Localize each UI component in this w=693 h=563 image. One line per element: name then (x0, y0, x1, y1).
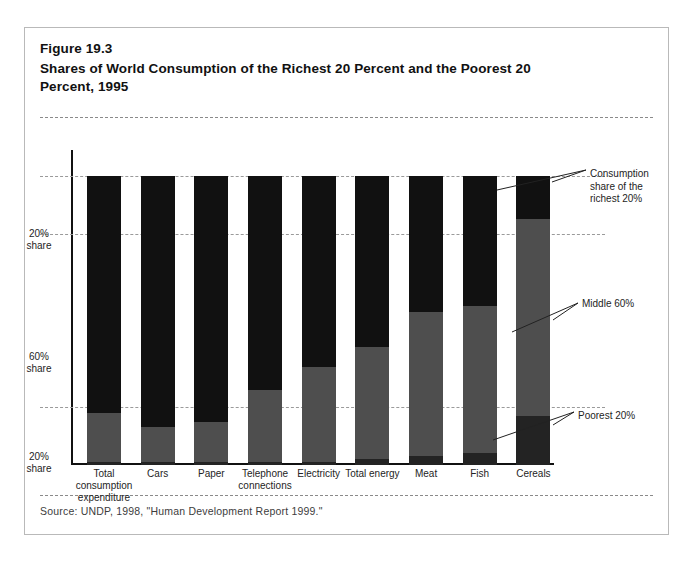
annotation-poorest: Poorest 20% (578, 410, 663, 423)
bar-8 (516, 176, 550, 465)
bar-segment-poorest (141, 462, 175, 465)
bars-area: 20%share60%share20%shareTotalconsumption… (73, 176, 554, 465)
bar-segment-poorest (248, 462, 282, 465)
bar-segment-richest (355, 176, 389, 347)
bar-segment-middle (409, 312, 443, 457)
x-label-line: connections (225, 480, 305, 492)
bar-segment-poorest (194, 462, 228, 465)
bar-segment-poorest (516, 416, 550, 465)
bar-segment-richest (516, 176, 550, 219)
bar-segment-poorest (302, 462, 336, 465)
annotation-middle: Middle 60% (582, 298, 662, 311)
bar-segment-richest (87, 176, 121, 413)
y-tick-unit: share (13, 240, 65, 252)
chart-container: 20%share60%share20%shareTotalconsumption… (40, 130, 653, 490)
bar-segment-poorest (409, 456, 443, 465)
x-label-line: expenditure (64, 492, 144, 504)
y-tick-value: 60% (13, 351, 65, 363)
y-tick-unit: share (13, 363, 65, 375)
bar-segment-richest (194, 176, 228, 422)
bar-segment-middle (463, 306, 497, 453)
bar-segment-poorest (463, 453, 497, 465)
bar-6 (409, 176, 443, 465)
bar-segment-richest (409, 176, 443, 312)
bar-0 (87, 176, 121, 465)
bar-segment-richest (463, 176, 497, 306)
bar-segment-middle (87, 413, 121, 462)
bar-segment-richest (302, 176, 336, 367)
bar-segment-middle (194, 422, 228, 462)
annotation-richest: Consumption share of the richest 20% (590, 168, 660, 206)
bar-1 (141, 176, 175, 465)
page-title: Shares of World Consumption of the Riche… (40, 60, 540, 96)
figure-title-block: Figure 19.3 Shares of World Consumption … (40, 40, 560, 96)
figure-page: Figure 19.3 Shares of World Consumption … (0, 0, 693, 563)
plot-area: 20%share60%share20%shareTotalconsumption… (71, 150, 554, 465)
bar-segment-middle (141, 427, 175, 462)
bar-segment-richest (141, 176, 175, 427)
y-tick-value: 20% (13, 228, 65, 240)
bar-7 (463, 176, 497, 465)
x-axis-label-8: Cereals (493, 468, 573, 480)
bar-2 (194, 176, 228, 465)
x-label-line: consumption (64, 480, 144, 492)
y-axis-tick-1: 60%share (13, 351, 65, 375)
bar-5 (355, 176, 389, 465)
bar-segment-poorest (355, 459, 389, 465)
y-tick-value: 20% (13, 451, 65, 463)
bar-4 (302, 176, 336, 465)
bar-segment-poorest (87, 462, 121, 465)
divider-top (40, 117, 653, 118)
y-axis-tick-2: 20%share (13, 451, 65, 475)
bar-segment-middle (248, 390, 282, 462)
x-label-line: Cereals (493, 468, 573, 480)
source-note: Source: UNDP, 1998, "Human Development R… (40, 505, 323, 517)
bar-segment-middle (516, 219, 550, 416)
figure-number: Figure 19.3 (40, 40, 560, 58)
y-axis-tick-0: 20%share (13, 228, 65, 252)
bar-segment-richest (248, 176, 282, 390)
bar-segment-middle (302, 367, 336, 462)
bar-3 (248, 176, 282, 465)
y-tick-unit: share (13, 463, 65, 475)
bar-segment-middle (355, 347, 389, 460)
